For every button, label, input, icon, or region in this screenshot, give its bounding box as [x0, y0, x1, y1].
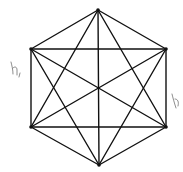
vertex-lower-left [29, 125, 33, 129]
edge-lower-right-bottom [99, 127, 166, 165]
right-handwritten-mark [172, 94, 178, 108]
vertex-top [96, 8, 100, 12]
hexagon-complete-graph [0, 0, 183, 172]
vertex-lower-right [164, 125, 168, 129]
edge-bottom-lower-left [31, 127, 99, 165]
edge-top-upper-left [31, 10, 98, 49]
edges [31, 10, 166, 165]
vertex-upper-right [164, 47, 168, 51]
left-handwritten-mark [11, 62, 20, 77]
vertex-bottom [97, 163, 101, 167]
edge-top-upper-right [98, 10, 166, 49]
vertex-upper-left [29, 47, 33, 51]
